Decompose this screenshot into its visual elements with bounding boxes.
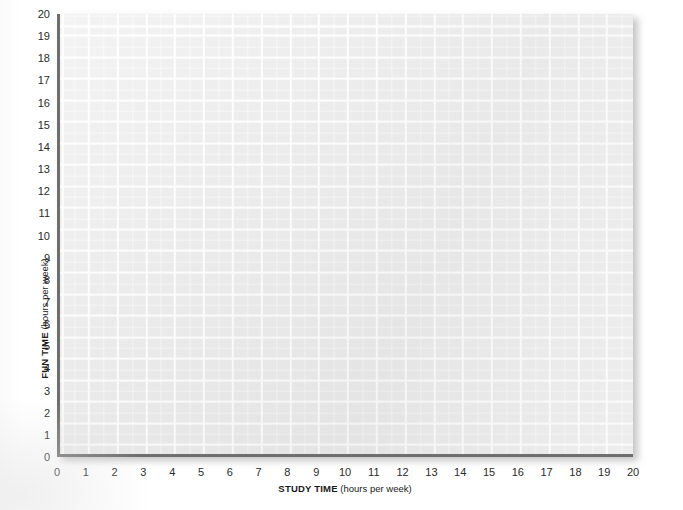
chart-figure: 01234567891011121314151617181920 0123456…: [0, 0, 683, 510]
x-tick-label: 15: [477, 467, 501, 478]
x-tick-label: 16: [506, 467, 530, 478]
x-tick-label: 9: [304, 467, 328, 478]
x-tick-label: 13: [419, 467, 443, 478]
x-tick-label: 2: [103, 467, 127, 478]
x-tick-label: 7: [247, 467, 271, 478]
x-axis-title-bold: STUDY TIME: [278, 483, 337, 494]
x-tick-label: 14: [448, 467, 472, 478]
y-axis-title: FUN TIME (hours per week): [24, 145, 38, 305]
x-tick-label: 19: [592, 467, 616, 478]
x-tick-label: 0: [45, 467, 69, 478]
x-tick-label: 11: [362, 467, 386, 478]
x-tick-label: 1: [74, 467, 98, 478]
x-tick-label: 5: [189, 467, 213, 478]
x-tick-label: 4: [160, 467, 184, 478]
x-axis-title-units: (hours per week): [338, 483, 412, 494]
x-tick-label: 10: [333, 467, 357, 478]
x-tick-label: 6: [218, 467, 242, 478]
x-tick-label: 20: [621, 467, 645, 478]
y-axis-title-units: (hours per week): [39, 258, 50, 332]
x-tick-label: 18: [563, 467, 587, 478]
x-axis-tick-labels: 01234567891011121314151617181920: [0, 0, 683, 510]
x-tick-label: 8: [275, 467, 299, 478]
x-tick-label: 17: [535, 467, 559, 478]
x-tick-label: 3: [131, 467, 155, 478]
x-tick-label: 12: [391, 467, 415, 478]
x-axis-title: STUDY TIME (hours per week): [57, 483, 633, 494]
y-axis-title-bold: FUN TIME: [39, 332, 50, 378]
